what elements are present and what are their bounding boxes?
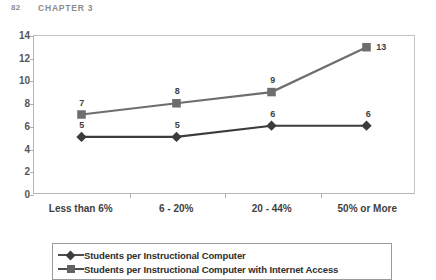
y-axis-tick-label: 12	[19, 54, 30, 64]
square-marker-icon	[267, 88, 276, 96]
y-axis-tick-mark	[30, 81, 34, 82]
square-marker-icon	[58, 263, 84, 275]
data-point-label: 6	[270, 110, 275, 119]
diamond-marker-icon	[76, 132, 86, 142]
legend-item-label: Students per Instructional Computer	[84, 250, 246, 261]
y-axis-tick-label: 14	[19, 31, 30, 41]
page-number: 82	[11, 3, 21, 12]
x-axis-category-label: 20 - 44%	[224, 202, 320, 218]
data-point-label: 13	[376, 43, 386, 52]
legend-item-students-per-computer: Students per Instructional Computer	[58, 248, 386, 262]
diamond-marker-icon	[171, 132, 181, 142]
y-axis-tick-mark	[30, 127, 34, 128]
x-axis-labels: Less than 6%6 - 20%20 - 44%50% or More	[33, 202, 415, 218]
data-point-label: 7	[79, 99, 84, 108]
data-point-label: 6	[366, 110, 371, 119]
chapter-title: CHAPTER 3	[38, 3, 93, 13]
y-axis-tick-mark	[30, 172, 34, 173]
line-chart: 02468101214556678913 Less than 6%6 - 20%…	[0, 18, 436, 277]
chart-legend: Students per Instructional Computer Stud…	[52, 243, 392, 280]
series-line	[82, 47, 367, 114]
data-point-label: 5	[175, 121, 180, 130]
plot-area: 02468101214556678913	[33, 35, 415, 194]
y-axis-tick-mark	[30, 104, 34, 105]
data-point-label: 8	[175, 87, 180, 96]
diamond-marker-icon	[266, 121, 276, 131]
series-line	[82, 126, 367, 137]
legend-item-students-per-computer-internet: Students per Instructional Computer with…	[58, 262, 386, 276]
x-axis-category-label: Less than 6%	[33, 202, 129, 218]
page-running-head: 82 CHAPTER 3	[0, 3, 436, 17]
x-axis-tick-mark	[321, 193, 322, 198]
y-axis-tick-mark	[30, 59, 34, 60]
diamond-marker-icon	[361, 121, 371, 131]
y-axis-tick-mark	[30, 150, 34, 151]
data-point-label: 5	[79, 121, 84, 130]
x-axis-tick-mark	[225, 193, 226, 198]
square-marker-icon	[362, 43, 371, 51]
data-point-label: 9	[270, 76, 275, 85]
y-axis-tick-mark	[30, 195, 34, 196]
x-axis-tick-mark	[130, 193, 131, 198]
x-axis-category-label: 50% or More	[320, 202, 416, 218]
square-marker-icon	[172, 99, 181, 107]
square-marker-icon	[77, 110, 86, 118]
y-axis-tick-mark	[30, 36, 34, 37]
legend-item-label: Students per Instructional Computer with…	[84, 264, 338, 275]
diamond-marker-icon	[58, 249, 84, 261]
series-overlay	[34, 36, 414, 193]
x-axis-category-label: 6 - 20%	[129, 202, 225, 218]
y-axis-tick-label: 10	[19, 76, 30, 86]
